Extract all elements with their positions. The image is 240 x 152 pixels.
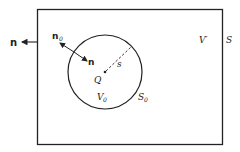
radius-label: s <box>117 59 122 69</box>
outer-normal-label: n <box>10 37 17 48</box>
inner-normal-outward-arrow <box>60 43 74 52</box>
center-label: Q <box>94 75 102 85</box>
outer-boundary-surface <box>38 10 223 145</box>
center-point <box>104 71 107 74</box>
diagram-canvas: n n 0 n s Q V 0 S 0 V′ S <box>0 0 240 152</box>
outer-volume-label: V′ <box>199 35 208 45</box>
outer-surface-label: S <box>226 35 232 45</box>
inner-normal-outward-label: n <box>52 31 58 41</box>
inner-normal-inward-arrow <box>74 52 87 61</box>
inner-normal-outward-subscript: 0 <box>59 35 63 42</box>
inner-surface-subscript: 0 <box>144 96 148 103</box>
inner-normal-inward-label: n <box>88 57 94 67</box>
inner-volume-subscript: 0 <box>103 96 107 103</box>
